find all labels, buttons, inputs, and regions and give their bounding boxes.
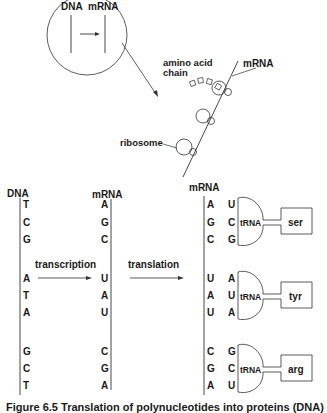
dna-base: A xyxy=(23,273,30,284)
anticodon-base: C xyxy=(228,363,235,374)
dna-base: T xyxy=(23,199,29,210)
mrna-base: A xyxy=(101,199,108,210)
anticodon-base: G xyxy=(228,346,236,357)
trna-label: tRNA xyxy=(240,365,261,375)
mrna-codon-base: A xyxy=(207,290,214,301)
mrna-base: C xyxy=(101,234,108,245)
chain-label: chain xyxy=(163,67,188,78)
mrna-codon-base: A xyxy=(207,199,214,210)
mrna-codon-base: G xyxy=(207,217,215,228)
mrna-codon-base: A xyxy=(207,380,214,391)
ribosome-label: ribosome xyxy=(120,137,163,148)
inset-mrna-label: mRNA xyxy=(88,1,119,12)
mrna-base: G xyxy=(101,363,109,374)
anticodon-base: A xyxy=(228,307,235,318)
mrna-base: G xyxy=(101,217,109,228)
dna-base: T xyxy=(23,290,29,301)
mrna-base: U xyxy=(101,273,108,284)
anticodon-base: C xyxy=(228,217,235,228)
anticodon-base: A xyxy=(228,273,235,284)
amino-acid-arg: arg xyxy=(288,364,304,375)
anticodon-base: G xyxy=(228,234,236,245)
figure-caption: Figure 6.5 Translation of polynucleotide… xyxy=(6,401,327,413)
transcription-label: transcription xyxy=(35,259,96,270)
trna-label: tRNA xyxy=(240,292,261,302)
dna-base: A xyxy=(23,307,30,318)
mrna-base: A xyxy=(101,380,108,391)
translation-label: translation xyxy=(128,259,179,270)
anticodon-base: U xyxy=(228,380,235,391)
mrna-strand-label: mRNA xyxy=(243,58,274,69)
dna-base: C xyxy=(23,217,30,228)
anticodon-base: U xyxy=(228,199,235,210)
mrna-base: U xyxy=(101,307,108,318)
mrna-base: C xyxy=(101,346,108,357)
mrna-codon-base: U xyxy=(207,273,214,284)
dna-base: C xyxy=(23,363,30,374)
translation-diagram: DNA mRNA mRNA amino acid chain ribosome … xyxy=(0,0,327,413)
dna-base: G xyxy=(23,234,31,245)
mrna-strand xyxy=(183,61,238,177)
mrna-base: A xyxy=(101,290,108,301)
translation-arrow-icon xyxy=(178,276,184,280)
inset-dna-label: DNA xyxy=(61,1,83,12)
amino-acid-ser: ser xyxy=(288,217,303,228)
mrna-codon-base: C xyxy=(207,346,214,357)
inset-arrow-icon xyxy=(95,32,100,36)
trna-label: tRNA xyxy=(240,218,261,228)
mrna-header-2: mRNA xyxy=(189,182,220,193)
anticodon-base: U xyxy=(228,290,235,301)
amino-acid-tyr: tyr xyxy=(289,291,302,302)
mrna-codon-base: G xyxy=(207,363,215,374)
transcription-arrow-icon xyxy=(86,276,92,280)
mrna-codon-base: U xyxy=(207,307,214,318)
dna-base: G xyxy=(23,346,31,357)
dna-base: T xyxy=(23,380,29,391)
mrna-codon-base: C xyxy=(207,234,214,245)
dna-header: DNA xyxy=(7,188,29,199)
